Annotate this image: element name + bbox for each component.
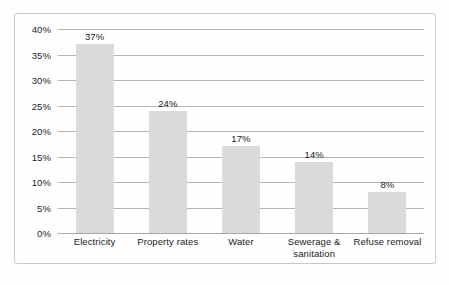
bar-group: 17% xyxy=(222,29,260,233)
bar-value-label: 37% xyxy=(85,31,104,42)
chart-frame: 0%5%10%15%20%25%30%35%40% 37%24%17%14%8%… xyxy=(14,13,436,264)
x-axis-label: Refuse removal xyxy=(351,236,424,248)
x-axis-label-line: Water xyxy=(204,236,277,248)
y-axis-tick-label: 40% xyxy=(32,24,51,35)
y-axis-tick-label: 5% xyxy=(37,202,51,213)
x-axis-label-line: Electricity xyxy=(58,236,131,248)
y-axis-tick-label: 0% xyxy=(37,228,51,239)
bar-value-label: 8% xyxy=(380,179,394,190)
bar xyxy=(149,111,187,233)
x-axis-category-labels: ElectricityProperty ratesWaterSewerage &… xyxy=(58,236,424,268)
bar xyxy=(295,162,333,233)
y-axis-tick-label: 10% xyxy=(32,177,51,188)
bar-value-label: 14% xyxy=(305,149,324,160)
x-axis-line: 0% xyxy=(58,233,424,234)
y-axis-tick-label: 20% xyxy=(32,126,51,137)
bar-group: 8% xyxy=(368,29,406,233)
bar-value-label: 17% xyxy=(231,133,250,144)
x-axis-label: Property rates xyxy=(131,236,204,248)
x-axis-label: Electricity xyxy=(58,236,131,248)
x-axis-label-line: Sewerage & xyxy=(278,236,351,248)
y-axis-tick-label: 30% xyxy=(32,75,51,86)
bar-group: 37% xyxy=(76,29,114,233)
y-axis-tick-label: 15% xyxy=(32,151,51,162)
x-axis-label: Water xyxy=(204,236,277,248)
bar xyxy=(368,192,406,233)
bar-group: 24% xyxy=(149,29,187,233)
y-axis-tick-label: 35% xyxy=(32,49,51,60)
bar xyxy=(76,44,114,233)
bar-group: 14% xyxy=(295,29,333,233)
bar-value-label: 24% xyxy=(158,98,177,109)
y-axis-tick-label: 25% xyxy=(32,100,51,111)
x-axis-label-line: Property rates xyxy=(131,236,204,248)
plot-area: 0%5%10%15%20%25%30%35%40% 37%24%17%14%8% xyxy=(58,29,424,233)
bar-series: 37%24%17%14%8% xyxy=(58,29,424,233)
x-axis-label-line: sanitation xyxy=(278,248,351,260)
bar xyxy=(222,146,260,233)
x-axis-label: Sewerage &sanitation xyxy=(278,236,351,259)
x-axis-label-line: Refuse removal xyxy=(351,236,424,248)
